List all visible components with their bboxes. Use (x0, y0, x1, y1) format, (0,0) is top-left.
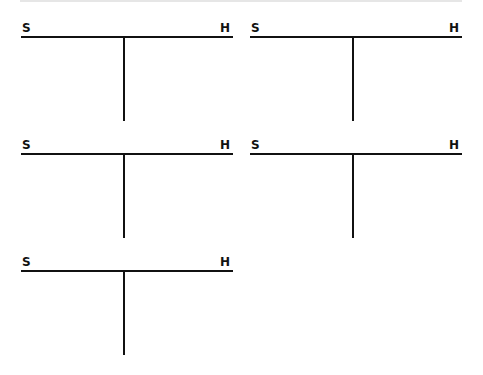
t-chart-horizontal-line (21, 153, 233, 155)
t-chart-right-label: H (449, 138, 459, 152)
t-chart-left-label: S (251, 138, 260, 152)
t-chart-2: S H (250, 21, 462, 121)
top-divider (20, 0, 462, 2)
t-chart-left-label: S (22, 255, 31, 269)
t-chart-3: S H (21, 138, 233, 238)
t-chart-left-label: S (251, 21, 260, 35)
t-chart-horizontal-line (21, 36, 233, 38)
t-chart-vertical-line (123, 36, 125, 121)
t-chart-vertical-line (123, 270, 125, 355)
t-chart-vertical-line (123, 153, 125, 238)
t-chart-left-label: S (22, 21, 31, 35)
t-chart-right-label: H (220, 255, 230, 269)
t-chart-vertical-line (352, 36, 354, 121)
t-chart-5: S H (21, 255, 233, 355)
t-chart-left-label: S (22, 138, 31, 152)
t-chart-horizontal-line (21, 270, 233, 272)
t-chart-horizontal-line (250, 36, 462, 38)
t-chart-4: S H (250, 138, 462, 238)
t-chart-right-label: H (220, 21, 230, 35)
t-chart-right-label: H (220, 138, 230, 152)
t-chart-vertical-line (352, 153, 354, 238)
t-chart-right-label: H (449, 21, 459, 35)
t-chart-1: S H (21, 21, 233, 121)
t-chart-horizontal-line (250, 153, 462, 155)
